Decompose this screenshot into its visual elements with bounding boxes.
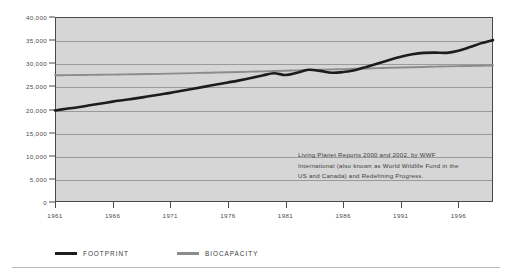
y-tick-label-15000: 15,000 (26, 129, 47, 136)
x-tick-label-1971: 1971 (163, 212, 178, 219)
y-tick-label-30000: 30,000 (26, 60, 47, 67)
legend-label-biocapacity: BIOCAPACITY (205, 250, 259, 257)
source-annotation: Living Planet Reports 2000 and 2002, by … (298, 150, 494, 182)
x-tick-label-1981: 1981 (278, 212, 293, 219)
x-tick-mark-1991 (401, 202, 402, 208)
footprint-biocapacity-chart: 05,00010,00015,00020,00025,00030,00035,0… (0, 0, 512, 274)
y-tick-label-40000: 40,000 (26, 14, 47, 21)
legend-swatch-footprint (55, 252, 77, 255)
x-tick-label-1961: 1961 (47, 212, 62, 219)
x-tick-mark-1961 (55, 202, 56, 208)
y-axis: 05,00010,00015,00020,00025,00030,00035,0… (0, 17, 47, 202)
x-tick-mark-1986 (343, 202, 344, 208)
x-tick-mark-1966 (113, 202, 114, 208)
legend-item-footprint: FOOTPRINT (55, 250, 129, 257)
legend-swatch-biocapacity (177, 252, 199, 255)
y-tick-label-5000: 5,000 (30, 175, 47, 182)
annotation-line-2: International (also known as World Wildl… (298, 161, 494, 172)
y-tick-label-35000: 35,000 (26, 37, 47, 44)
y-tick-label-25000: 25,000 (26, 83, 47, 90)
y-tick-label-20000: 20,000 (26, 106, 47, 113)
legend-item-biocapacity: BIOCAPACITY (177, 250, 259, 257)
y-tick-label-0: 0 (43, 199, 47, 206)
x-tick-label-1976: 1976 (220, 212, 235, 219)
x-tick-label-1966: 1966 (105, 212, 120, 219)
annotation-line-3: US and Canada) and Redefining Progress. (298, 171, 494, 182)
x-tick-mark-1971 (170, 202, 171, 208)
y-tick-label-10000: 10,000 (26, 152, 47, 159)
legend-label-footprint: FOOTPRINT (83, 250, 129, 257)
x-tick-mark-1981 (286, 202, 287, 208)
x-tick-mark-1996 (458, 202, 459, 208)
bottom-divider (12, 267, 500, 268)
annotation-line-1: Living Planet Reports 2000 and 2002, by … (298, 150, 494, 161)
x-tick-label-1991: 1991 (393, 212, 408, 219)
chart-legend: FOOTPRINT BIOCAPACITY (55, 247, 258, 259)
x-tick-label-1996: 1996 (451, 212, 466, 219)
x-tick-mark-1976 (228, 202, 229, 208)
x-tick-label-1986: 1986 (335, 212, 350, 219)
